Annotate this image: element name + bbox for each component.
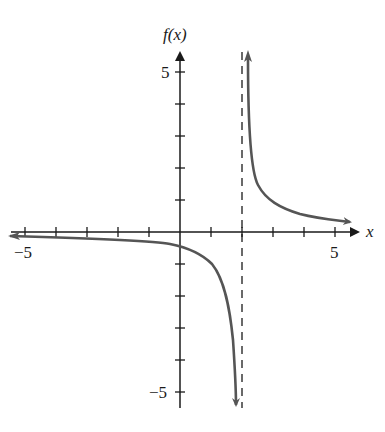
curve-left-branch [10, 236, 236, 405]
y-tick-label-neg5: −5 [149, 383, 167, 402]
y-axis-label: f(x) [163, 25, 187, 44]
x-axis-label: x [365, 222, 374, 241]
y-tick-label-5: 5 [161, 63, 170, 82]
function-graph: f(x) x −5 5 5 −5 [0, 0, 385, 432]
curve-right-branch [248, 58, 350, 222]
x-tick-label-neg5: −5 [14, 243, 32, 262]
x-tick-label-5: 5 [330, 243, 339, 262]
